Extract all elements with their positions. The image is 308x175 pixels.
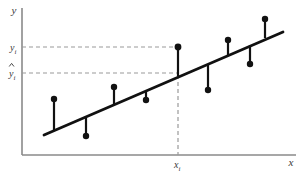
regression-residuals-figure: y x yi yi xi xyxy=(0,0,308,175)
data-point xyxy=(262,16,268,22)
highlighted-data-point xyxy=(175,44,182,51)
x-i-tick-label: xi xyxy=(173,159,180,173)
y-observed-subscript: i xyxy=(14,48,16,56)
hat-accent-icon xyxy=(9,63,14,66)
y-observed-tick-label: yi xyxy=(9,42,16,56)
data-point xyxy=(51,96,57,102)
y-predicted-tick-label: yi xyxy=(8,68,15,82)
data-point xyxy=(247,61,253,67)
guide-lines-group xyxy=(22,47,178,155)
data-points-group xyxy=(51,16,268,139)
x-i-subscript: i xyxy=(178,165,180,173)
data-point xyxy=(111,84,117,90)
data-point xyxy=(225,37,231,43)
y-axis-label: y xyxy=(11,4,17,16)
plot-canvas: y x yi yi xi xyxy=(0,0,308,175)
axes-group xyxy=(22,8,296,155)
y-predicted-subscript: i xyxy=(13,74,15,82)
data-point xyxy=(83,133,89,139)
data-point xyxy=(205,87,211,93)
data-point xyxy=(143,97,149,103)
x-axis-label: x xyxy=(288,156,294,168)
